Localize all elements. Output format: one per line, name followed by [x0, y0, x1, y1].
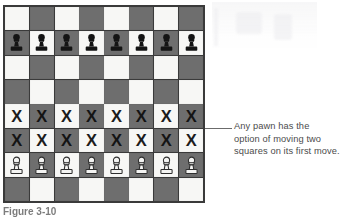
chess-board[interactable]: XXXXXXXXXXXXXXXX [3, 5, 205, 203]
move-target-mark: X [136, 108, 147, 125]
black-pawn-icon[interactable] [79, 31, 103, 55]
scan-artifact-blotch [274, 14, 292, 40]
annotation-line: squares on its first move. [234, 145, 350, 158]
board-square-b5[interactable] [30, 80, 54, 104]
board-square-a2[interactable] [5, 153, 29, 177]
board-square-e6[interactable] [104, 56, 128, 80]
move-target-mark: X [86, 132, 97, 149]
black-pawn-icon[interactable] [104, 31, 128, 55]
board-square-d1[interactable] [79, 178, 103, 202]
board-square-b6[interactable] [30, 56, 54, 80]
board-square-h1[interactable] [179, 178, 203, 202]
figure-caption-text: Figure 3-10 [3, 206, 153, 217]
board-square-c7[interactable] [55, 31, 79, 55]
board-square-d4[interactable]: X [79, 104, 103, 128]
board-square-f4[interactable]: X [129, 104, 153, 128]
board-square-a1[interactable] [5, 178, 29, 202]
figure-caption: Figure 3-10 [3, 206, 153, 218]
white-pawn-icon[interactable] [5, 153, 29, 177]
black-pawn-icon[interactable] [129, 31, 153, 55]
move-target-mark: X [36, 108, 47, 125]
board-square-e2[interactable] [104, 153, 128, 177]
board-square-g1[interactable] [154, 178, 178, 202]
white-pawn-icon[interactable] [179, 153, 203, 177]
scan-artifact [212, 2, 317, 48]
board-square-e5[interactable] [104, 80, 128, 104]
move-target-mark: X [61, 108, 72, 125]
black-pawn-icon[interactable] [30, 31, 54, 55]
board-square-d6[interactable] [79, 56, 103, 80]
white-pawn-icon[interactable] [55, 153, 79, 177]
board-square-h6[interactable] [179, 56, 203, 80]
board-square-d7[interactable] [79, 31, 103, 55]
board-square-h2[interactable] [179, 153, 203, 177]
board-square-a6[interactable] [5, 56, 29, 80]
board-square-a8[interactable] [5, 7, 29, 31]
board-square-c1[interactable] [55, 178, 79, 202]
move-target-mark: X [161, 132, 172, 149]
leader-line-icon [205, 128, 232, 129]
board-square-g5[interactable] [154, 80, 178, 104]
board-square-g7[interactable] [154, 31, 178, 55]
board-square-c6[interactable] [55, 56, 79, 80]
board-square-g6[interactable] [154, 56, 178, 80]
move-target-mark: X [111, 108, 122, 125]
board-square-h4[interactable]: X [179, 104, 203, 128]
board-square-d3[interactable]: X [79, 129, 103, 153]
black-pawn-icon[interactable] [5, 31, 29, 55]
board-square-e7[interactable] [104, 31, 128, 55]
board-square-f5[interactable] [129, 80, 153, 104]
board-square-b7[interactable] [30, 31, 54, 55]
board-square-h7[interactable] [179, 31, 203, 55]
board-square-g4[interactable]: X [154, 104, 178, 128]
board-square-c3[interactable]: X [55, 129, 79, 153]
board-square-c4[interactable]: X [55, 104, 79, 128]
board-square-d5[interactable] [79, 80, 103, 104]
board-square-f2[interactable] [129, 153, 153, 177]
white-pawn-icon[interactable] [104, 153, 128, 177]
board-square-e3[interactable]: X [104, 129, 128, 153]
chess-diagram: XXXXXXXXXXXXXXXX [3, 5, 205, 203]
board-square-b8[interactable] [30, 7, 54, 31]
white-pawn-icon[interactable] [154, 153, 178, 177]
board-square-b1[interactable] [30, 178, 54, 202]
board-square-b3[interactable]: X [30, 129, 54, 153]
board-square-f3[interactable]: X [129, 129, 153, 153]
board-square-h5[interactable] [179, 80, 203, 104]
move-target-mark: X [186, 132, 197, 149]
black-pawn-icon[interactable] [55, 31, 79, 55]
move-target-mark: X [111, 132, 122, 149]
black-pawn-icon[interactable] [179, 31, 203, 55]
board-square-c5[interactable] [55, 80, 79, 104]
scan-artifact-blotch [214, 8, 218, 46]
move-target-mark: X [36, 132, 47, 149]
board-square-a4[interactable]: X [5, 104, 29, 128]
white-pawn-icon[interactable] [129, 153, 153, 177]
board-square-h8[interactable] [179, 7, 203, 31]
white-pawn-icon[interactable] [30, 153, 54, 177]
board-square-f7[interactable] [129, 31, 153, 55]
board-square-e4[interactable]: X [104, 104, 128, 128]
board-square-a3[interactable]: X [5, 129, 29, 153]
board-square-c8[interactable] [55, 7, 79, 31]
move-target-mark: X [61, 132, 72, 149]
white-pawn-icon[interactable] [79, 153, 103, 177]
board-square-f1[interactable] [129, 178, 153, 202]
move-target-mark: X [186, 108, 197, 125]
board-square-g3[interactable]: X [154, 129, 178, 153]
board-square-a7[interactable] [5, 31, 29, 55]
board-square-h3[interactable]: X [179, 129, 203, 153]
board-square-b4[interactable]: X [30, 104, 54, 128]
board-square-d8[interactable] [79, 7, 103, 31]
board-square-g2[interactable] [154, 153, 178, 177]
board-square-e8[interactable] [104, 7, 128, 31]
board-square-f8[interactable] [129, 7, 153, 31]
board-square-f6[interactable] [129, 56, 153, 80]
board-square-c2[interactable] [55, 153, 79, 177]
black-pawn-icon[interactable] [154, 31, 178, 55]
board-square-e1[interactable] [104, 178, 128, 202]
board-square-g8[interactable] [154, 7, 178, 31]
board-square-a5[interactable] [5, 80, 29, 104]
board-square-b2[interactable] [30, 153, 54, 177]
board-square-d2[interactable] [79, 153, 103, 177]
